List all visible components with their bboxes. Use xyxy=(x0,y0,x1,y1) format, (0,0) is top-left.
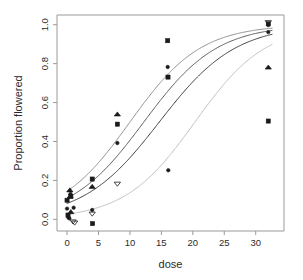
data-point-circle xyxy=(90,208,93,211)
fit-curve-2 xyxy=(67,30,272,198)
plot-figure: 0510152025300.00.20.40.60.81.0dosePropor… xyxy=(0,0,303,280)
plot-axes-layer xyxy=(53,15,284,235)
plot-points-layer xyxy=(65,21,272,226)
data-point-square xyxy=(166,39,170,43)
data-point-circle xyxy=(267,30,270,33)
data-point-square xyxy=(166,75,170,79)
fit-curve-3 xyxy=(67,34,272,203)
data-point-square xyxy=(65,198,69,202)
data-point-triangle-down xyxy=(114,182,120,186)
data-point-triangle-down xyxy=(89,212,95,216)
y-tick-label: 0.4 xyxy=(39,135,50,148)
data-point-triangle-up xyxy=(89,184,95,188)
y-tick-label: 0.8 xyxy=(39,57,50,70)
observations-circle xyxy=(65,23,270,220)
x-tick-label: 15 xyxy=(156,237,167,248)
data-point-square xyxy=(115,122,119,126)
x-tick-label: 20 xyxy=(188,237,199,248)
data-point-circle xyxy=(167,169,170,172)
data-point-triangle-up xyxy=(265,65,271,69)
data-point-circle xyxy=(166,65,169,68)
x-axis-title: dose xyxy=(159,258,183,270)
x-tick-label: 0 xyxy=(64,237,69,248)
observations-triangle-down xyxy=(70,21,272,226)
data-point-square xyxy=(90,177,94,181)
x-tick-label: 25 xyxy=(219,237,230,248)
data-point-square xyxy=(266,119,270,123)
data-point-circle xyxy=(116,141,119,144)
data-point-square xyxy=(90,222,94,226)
observations-square xyxy=(65,22,270,226)
x-tick-label: 30 xyxy=(250,237,261,248)
data-point-triangle-up xyxy=(114,112,120,116)
y-tick-label: 0.6 xyxy=(39,96,50,109)
data-point-circle xyxy=(72,206,75,209)
plot-canvas: 0510152025300.00.20.40.60.81.0dosePropor… xyxy=(0,0,303,280)
y-tick-label: 0.0 xyxy=(39,213,50,226)
x-tick-label: 10 xyxy=(125,237,136,248)
y-tick-label: 0.2 xyxy=(39,174,50,187)
data-point-triangle-up xyxy=(68,210,74,214)
x-tick-label: 5 xyxy=(96,237,101,248)
plot-curves-layer xyxy=(67,28,272,214)
plot-box xyxy=(57,15,284,231)
y-tick-label: 1.0 xyxy=(39,18,50,31)
plot-labels-layer: 0510152025300.00.20.40.60.81.0dosePropor… xyxy=(12,18,261,270)
fit-curve-4-lower xyxy=(67,44,272,214)
y-axis-title: Proportion flowered xyxy=(12,75,24,170)
data-point-triangle-up xyxy=(67,188,73,192)
data-point-circle xyxy=(65,207,68,210)
observations-triangle-up xyxy=(67,65,272,214)
